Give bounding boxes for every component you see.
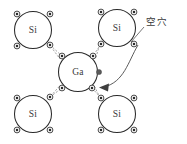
electron-marker xyxy=(59,53,65,59)
electron-marker xyxy=(98,41,104,47)
electron-marker xyxy=(47,94,53,100)
lattice-svg-canvas: Si Si Ga Si Si xyxy=(0,0,187,144)
free-electron-dot xyxy=(96,69,101,74)
atom-label-si-bottom-right: Si xyxy=(113,109,121,119)
electron-marker xyxy=(59,85,65,91)
electron-marker xyxy=(90,53,96,59)
electron-marker-hole-site xyxy=(89,85,95,91)
electron-marker xyxy=(98,127,104,133)
electron-marker xyxy=(98,95,104,101)
electron-marker xyxy=(47,127,53,133)
atom-label-si-top-left: Si xyxy=(29,25,37,35)
electron-marker xyxy=(14,95,20,101)
electron-marker xyxy=(131,9,137,15)
semiconductor-lattice-diagram: Si Si Ga Si Si xyxy=(0,0,187,144)
electron-marker xyxy=(131,95,137,101)
electron-marker xyxy=(131,41,137,47)
atom-label-si-top-right: Si xyxy=(113,23,121,33)
electron-marker xyxy=(47,11,53,17)
electron-marker xyxy=(98,9,104,15)
hole-arrow-curve xyxy=(104,45,138,87)
electron-marker xyxy=(47,42,53,48)
hole-arrow-head xyxy=(99,84,109,92)
electron-marker xyxy=(131,127,137,133)
hole-label-text: 空穴 xyxy=(146,16,167,27)
electron-marker xyxy=(14,127,20,133)
atom-label-ga-center: Ga xyxy=(72,67,84,77)
electron-marker xyxy=(14,11,20,17)
electron-marker xyxy=(14,43,20,49)
atom-label-si-bottom-left: Si xyxy=(29,109,37,119)
